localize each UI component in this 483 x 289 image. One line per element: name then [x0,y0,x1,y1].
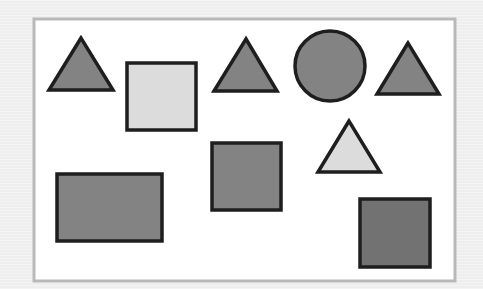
square-dark [360,199,430,267]
square-middle [212,143,281,210]
shapes-diagram [0,0,483,289]
square-light [127,63,196,130]
rectangle-wide [57,174,162,241]
circle-1 [295,31,365,101]
